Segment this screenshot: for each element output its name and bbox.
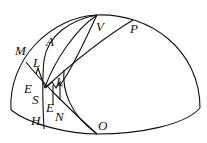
label-S: S bbox=[32, 93, 39, 106]
arc-L-O bbox=[64, 70, 97, 134]
label-M: M bbox=[15, 44, 26, 57]
label-E-lower: E bbox=[46, 101, 54, 114]
arc-apex-L bbox=[60, 15, 97, 85]
label-L-right: L bbox=[56, 75, 63, 88]
label-H: H bbox=[31, 114, 40, 127]
label-N: N bbox=[55, 110, 64, 123]
label-E-left: E bbox=[24, 82, 32, 95]
label-O: O bbox=[98, 119, 107, 132]
label-P: P bbox=[130, 22, 138, 35]
label-L-upper: L bbox=[33, 56, 40, 69]
label-V: V bbox=[96, 20, 104, 33]
hemisphere-diagram: M A V P L L E S E N H O bbox=[0, 0, 207, 143]
label-A: A bbox=[46, 35, 54, 48]
